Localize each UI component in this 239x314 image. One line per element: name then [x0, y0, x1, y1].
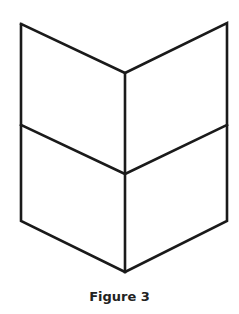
figure-diagram — [0, 0, 239, 314]
figure-caption: Figure 3 — [0, 289, 239, 304]
